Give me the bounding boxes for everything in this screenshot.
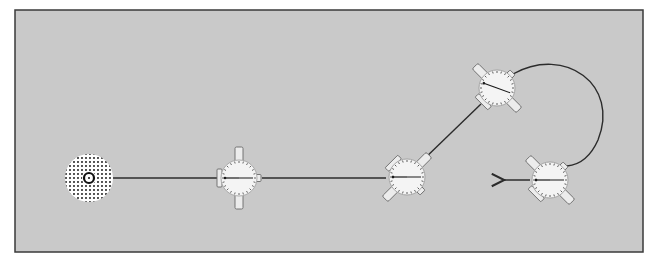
diagram-svg — [0, 0, 656, 265]
diagram-canvas — [0, 0, 656, 265]
base-station — [65, 154, 113, 202]
field-panel — [15, 10, 643, 252]
